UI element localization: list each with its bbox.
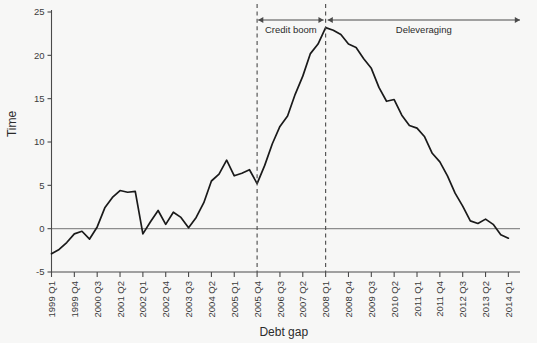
y-tick-label: 20 [34, 50, 45, 61]
x-tick-label: 2009 Q3 [366, 281, 377, 317]
x-tick-label: 2005 Q1 [229, 281, 240, 317]
x-tick-label: 2004 Q2 [206, 281, 217, 317]
x-tick-label: 2014 Q1 [503, 281, 514, 317]
annotation-arrow-head [515, 17, 520, 23]
y-axis-title: Time [5, 111, 19, 138]
annotation-arrow-head [328, 17, 333, 23]
annotation-arrow-head [318, 17, 323, 23]
x-tick-label: 2007 Q2 [297, 281, 308, 317]
chart-figure: -50510152025Time1999 Q11999 Q42000 Q3200… [0, 0, 537, 343]
y-tick-label: 10 [34, 136, 45, 147]
x-tick-label: 2008 Q1 [320, 281, 331, 317]
x-tick-label: 2006 Q3 [275, 281, 286, 317]
x-tick-label: 2013 Q2 [480, 281, 491, 317]
y-tick-label: 5 [39, 180, 44, 191]
annotation-arrow-head [258, 17, 263, 23]
y-tick-label: 0 [39, 223, 44, 234]
y-tick-label: 25 [34, 6, 45, 17]
annotation-label: Credit boom [265, 24, 317, 35]
x-tick-label: 2001 Q2 [115, 281, 126, 317]
data-series-line [52, 28, 509, 254]
x-tick-label: 2012 Q3 [457, 281, 468, 317]
x-tick-label: 2010 Q2 [389, 281, 400, 317]
x-tick-label: 2000 Q3 [92, 281, 103, 317]
annotation-label: Deleveraging [396, 24, 452, 35]
x-tick-label: 2008 Q4 [343, 281, 354, 317]
y-tick-label: 15 [34, 93, 45, 104]
line-chart-svg: -50510152025Time1999 Q11999 Q42000 Q3200… [0, 0, 537, 343]
x-axis-title: Debt gap [259, 325, 308, 339]
x-tick-label: 2011 Q1 [412, 281, 423, 317]
x-tick-label: 2002 Q4 [160, 281, 171, 317]
x-tick-label: 2002 Q1 [137, 281, 148, 317]
x-tick-label: 2005 Q4 [252, 281, 263, 317]
y-tick-label: -5 [36, 266, 44, 277]
x-tick-label: 1999 Q4 [69, 281, 80, 317]
x-tick-label: 1999 Q1 [46, 281, 57, 317]
x-tick-label: 2011 Q4 [434, 281, 445, 317]
x-tick-label: 2003 Q3 [183, 281, 194, 317]
